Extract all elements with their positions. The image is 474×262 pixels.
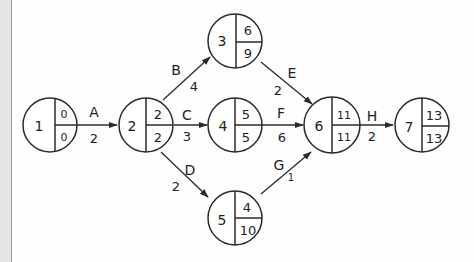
node-4-latest: 5 <box>242 130 250 145</box>
edge-h-activity: H <box>367 108 378 124</box>
edge-c-duration: 3 <box>183 129 191 144</box>
edge-g-duration: 1 <box>288 172 294 183</box>
node-3-id: 3 <box>218 33 227 49</box>
edge-g: G 1 <box>261 152 311 194</box>
node-1: 1 0 0 <box>23 98 77 152</box>
node-6-id: 6 <box>315 118 324 134</box>
edge-a-activity: A <box>89 104 99 120</box>
edge-b-duration: 4 <box>190 79 198 94</box>
node-7: 7 13 13 <box>395 98 449 152</box>
node-3-earliest: 6 <box>244 23 252 38</box>
node-2-latest: 2 <box>154 130 162 145</box>
edge-d-duration: 2 <box>172 179 180 194</box>
edge-d-activity: D <box>185 162 196 178</box>
edge-b-arrow <box>163 57 210 100</box>
node-1-latest: 0 <box>61 131 68 144</box>
edge-e-activity: E <box>288 65 297 81</box>
node-4: 4 5 5 <box>208 98 262 152</box>
node-4-earliest: 5 <box>242 107 250 122</box>
node-6-latest: 11 <box>337 131 351 144</box>
node-5: 5 4 10 <box>208 191 262 245</box>
node-4-id: 4 <box>219 118 228 134</box>
edge-f-activity: F <box>277 105 285 121</box>
edge-e-duration: 2 <box>274 83 282 98</box>
activity-network-diagram: A 2 B 4 C 3 D 2 E 2 F <box>0 0 474 262</box>
edge-b-activity: B <box>171 62 181 78</box>
edge-h-duration: 2 <box>368 129 376 144</box>
edge-h: H 2 <box>360 108 393 144</box>
edge-g-arrow <box>261 152 311 194</box>
edge-a-duration: 2 <box>90 131 98 146</box>
node-5-earliest: 4 <box>243 200 251 215</box>
node-1-earliest: 0 <box>61 108 68 121</box>
edge-e-arrow <box>261 62 312 104</box>
edge-f: F 6 <box>262 105 303 145</box>
edge-c-activity: C <box>182 107 192 123</box>
edge-g-activity: G <box>274 157 285 173</box>
edge-c: C 3 <box>174 107 207 144</box>
node-7-latest: 13 <box>426 131 443 146</box>
node-1-id: 1 <box>35 118 44 134</box>
node-2-earliest: 2 <box>154 107 162 122</box>
node-6: 6 11 11 <box>304 97 360 153</box>
edge-b: B 4 <box>163 57 210 100</box>
node-6-earliest: 11 <box>337 109 351 122</box>
edge-f-duration: 6 <box>278 130 286 145</box>
edge-e: E 2 <box>261 62 312 104</box>
node-3-latest: 9 <box>244 46 252 61</box>
page: A 2 B 4 C 3 D 2 E 2 F <box>0 0 474 262</box>
node-7-earliest: 13 <box>426 108 443 123</box>
node-7-id: 7 <box>405 119 414 135</box>
node-5-id: 5 <box>218 212 227 228</box>
node-2-id: 2 <box>128 118 137 134</box>
edge-d: D 2 <box>161 152 208 197</box>
edge-a: A 2 <box>76 104 117 146</box>
node-2: 2 2 2 <box>119 98 173 152</box>
node-3-circle <box>208 14 262 68</box>
node-3: 3 6 9 <box>208 14 262 68</box>
node-5-latest: 10 <box>240 223 257 238</box>
